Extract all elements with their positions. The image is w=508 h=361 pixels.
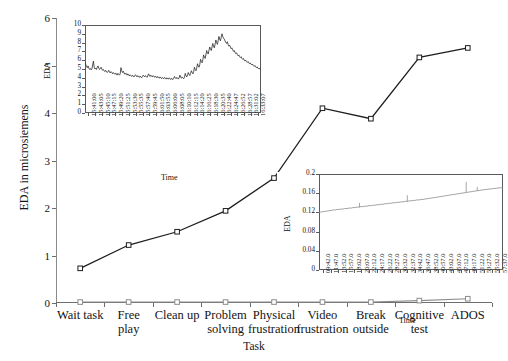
category-label-line: ADOS [424, 308, 508, 322]
inset2-x-tick-mark [361, 270, 362, 273]
inset1-x-tick-mark [231, 113, 232, 116]
x-axis-tick-mark [492, 303, 493, 307]
inset1-x-tick-mark [122, 113, 123, 116]
inset1-x-tick-mark [210, 113, 211, 116]
inset1-x-tick-mark [197, 113, 198, 116]
inset1-y-tick-label: 6 [59, 57, 81, 64]
x-axis-tick-mark [104, 303, 105, 307]
x-axis-tick-mark [250, 303, 251, 307]
inset2-y-tick-mark [316, 270, 319, 271]
inset1-x-axis-title: Time [161, 173, 178, 182]
x-axis-tick-mark [201, 303, 202, 307]
category-label-line: test [375, 322, 463, 336]
inset2-x-tick-mark [384, 270, 385, 273]
inset2-x-tick-mark [369, 270, 370, 273]
inset2-x-tick-mark [453, 270, 454, 273]
inset2-x-axis-title: Time [399, 316, 416, 325]
inset2-trace-line [319, 187, 503, 212]
inset2-x-tick-mark [446, 270, 447, 273]
inset1-x-tick-mark [183, 113, 184, 116]
y-axis-tick-label: 1 [30, 250, 50, 261]
x-axis-tick-mark [444, 303, 445, 307]
inset2-x-tick-mark [430, 270, 431, 273]
data-point-marker [369, 116, 374, 121]
x-axis-category-label: ADOS [424, 308, 508, 322]
inset2-y-tick-label: 0 [293, 266, 315, 273]
inset1-x-tick-mark [163, 113, 164, 116]
inset2-x-tick-mark [476, 270, 477, 273]
inset1-y-tick-label: 0 [59, 109, 81, 116]
inset1-x-tick-mark [95, 113, 96, 116]
data-point-marker [175, 300, 180, 305]
inset2-y-tick-label: 0.12 [293, 209, 315, 216]
inset2-x-tick-mark [499, 270, 500, 273]
x-axis-tick-mark [56, 303, 57, 307]
inset2-x-tick-mark [469, 270, 470, 273]
inset1-y-tick-label: 3 [59, 83, 81, 90]
inset2-trace [319, 174, 503, 270]
inset2-x-tick-mark [484, 270, 485, 273]
inset-chart-1: EDA Time 01234567891015:41:0015:43:0515:… [57, 23, 262, 135]
data-point-marker [223, 209, 228, 214]
inset1-x-tick-mark [251, 113, 252, 116]
inset1-y-tick-label: 8 [59, 39, 81, 46]
inset1-x-tick-mark [143, 113, 144, 116]
y-axis-tick-label: 0 [30, 298, 50, 309]
inset1-y-tick-label: 7 [59, 48, 81, 55]
data-point-marker [126, 243, 131, 248]
x-axis-tick-mark [347, 303, 348, 307]
y-axis-tick-label: 6 [30, 13, 50, 24]
inset2-x-tick-mark [415, 270, 416, 273]
x-axis-tick-mark [395, 303, 396, 307]
inset1-x-tick-mark [203, 113, 204, 116]
inset2-x-tick-mark [392, 270, 393, 273]
data-point-marker [320, 106, 325, 111]
inset1-x-tick-mark [237, 113, 238, 116]
data-point-marker [465, 296, 470, 301]
inset1-y-tick-mark [82, 113, 85, 114]
inset1-y-tick-label: 1 [59, 101, 81, 108]
x-axis-title: Task [0, 340, 508, 352]
inset2-x-tick-mark [492, 270, 493, 273]
inset-chart-2: EDA Time 00.040.080.120.160.209:42.011:4… [277, 172, 503, 290]
inset1-y-tick-label: 5 [59, 65, 81, 72]
x-axis-tick-mark [153, 303, 154, 307]
inset1-x-tick-mark [136, 113, 137, 116]
inset2-x-tick-mark [461, 270, 462, 273]
inset1-x-tick-mark [109, 113, 110, 116]
inset1-x-tick-mark [102, 113, 103, 116]
inset1-y-tick-label: 4 [59, 74, 81, 81]
inset1-x-tick-mark [258, 113, 259, 116]
category-label-line: play [85, 322, 173, 336]
data-point-marker [272, 176, 277, 181]
x-axis-tick-mark [298, 303, 299, 307]
inset1-x-tick-mark [190, 113, 191, 116]
inset2-x-tick-mark [331, 270, 332, 273]
data-point-marker [78, 266, 83, 271]
inset1-x-tick-mark [115, 113, 116, 116]
inset1-x-tick-mark [88, 113, 89, 116]
inset2-x-tick-mark [400, 270, 401, 273]
inset2-x-tick-mark [346, 270, 347, 273]
data-point-marker [417, 298, 422, 303]
inset2-y-tick-label: 0.04 [293, 247, 315, 254]
inset2-x-tick-mark [423, 270, 424, 273]
data-point-marker [417, 55, 422, 60]
inset1-x-tick-mark [176, 113, 177, 116]
data-point-marker [369, 300, 374, 305]
inset1-x-tick-mark [129, 113, 130, 116]
inset1-x-tick-mark [224, 113, 225, 116]
data-point-marker [272, 300, 277, 305]
chart-figure: EDA in microsiemens Task 0123456 Wait ta… [0, 0, 508, 361]
inset2-x-tick-mark [407, 270, 408, 273]
inset1-trace [85, 25, 261, 113]
data-point-marker [223, 300, 228, 305]
inset1-x-tick-label: 16:33:07 [260, 93, 266, 116]
inset2-y-tick-label: 0.16 [293, 190, 315, 197]
data-point-marker [78, 300, 83, 305]
y-axis-tick-label: 2 [30, 203, 50, 214]
inset1-y-tick-label: 9 [59, 30, 81, 37]
inset1-x-tick-mark [149, 113, 150, 116]
inset1-y-tick-label: 2 [59, 92, 81, 99]
inset2-y-axis-title: EDA [283, 216, 292, 232]
